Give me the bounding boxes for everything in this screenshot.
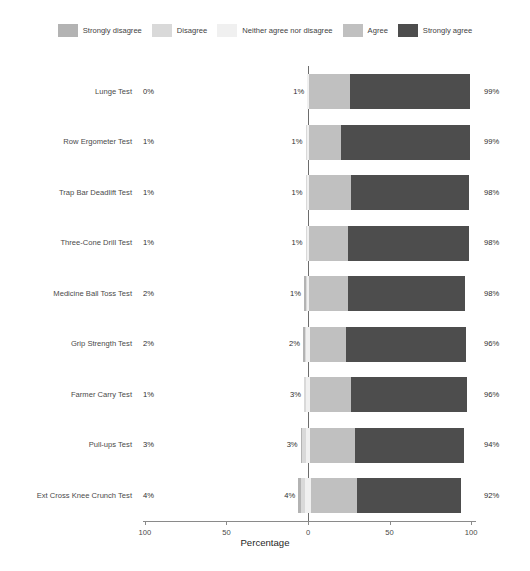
x-axis-tick <box>145 521 146 525</box>
legend-label: Strongly disagree <box>83 26 142 35</box>
positive-percent-label: 96% <box>484 339 499 348</box>
bar-segment-strongly-agree <box>350 74 471 109</box>
chart-row <box>143 66 476 117</box>
legend-swatch-icon <box>343 24 363 37</box>
bar-segment-strongly-agree <box>351 377 467 412</box>
positive-percent-label: 99% <box>484 137 499 146</box>
bar-segment-strongly-agree <box>341 125 470 160</box>
legend-swatch-icon <box>152 24 172 37</box>
legend-label: Neither agree nor disagree <box>242 26 332 35</box>
category-label: Medicine Ball Toss Test <box>53 289 132 298</box>
neutral-percent-label: 3% <box>287 440 298 449</box>
bar-segment-agree <box>309 74 350 109</box>
chart-row <box>143 319 476 370</box>
bar-segment-agree <box>309 276 348 311</box>
legend-item: Neither agree nor disagree <box>217 24 332 37</box>
x-axis-tick <box>471 521 472 525</box>
positive-percent-label: 98% <box>484 188 499 197</box>
stacked-bar <box>143 175 476 210</box>
x-axis-tick <box>308 521 309 525</box>
bar-segment-agree <box>311 478 357 513</box>
negative-percent-label: 0% <box>143 87 154 96</box>
plot-area <box>143 66 476 521</box>
bar-segment-strongly-agree <box>355 428 464 463</box>
positive-percent-label: 98% <box>484 238 499 247</box>
neutral-percent-label: 1% <box>292 188 303 197</box>
category-label: Row Ergometer Test <box>63 137 132 146</box>
chart-row <box>143 369 476 420</box>
negative-percent-label: 1% <box>143 188 154 197</box>
positive-percent-label: 99% <box>484 87 499 96</box>
category-label: Three-Cone Drill Test <box>60 238 132 247</box>
legend-item: Strongly disagree <box>58 24 142 37</box>
stacked-bar <box>143 276 476 311</box>
positive-percent-label: 98% <box>484 289 499 298</box>
negative-percent-label: 1% <box>143 238 154 247</box>
neutral-percent-label: 2% <box>289 339 300 348</box>
bar-segment-strongly-agree <box>346 327 467 362</box>
bar-segment-strongly-agree <box>351 175 469 210</box>
neutral-percent-label: 1% <box>292 137 303 146</box>
negative-percent-label: 4% <box>143 491 154 500</box>
stacked-bar <box>143 478 476 513</box>
category-label: Lunge Test <box>95 87 132 96</box>
legend-item: Disagree <box>152 24 207 37</box>
bar-segment-agree <box>310 428 354 463</box>
legend-swatch-icon <box>217 24 237 37</box>
negative-percent-label: 2% <box>143 289 154 298</box>
stacked-bar <box>143 74 476 109</box>
chart-row <box>143 167 476 218</box>
x-axis-tick-label: 50 <box>385 528 393 537</box>
neutral-percent-label: 1% <box>292 238 303 247</box>
stacked-bar <box>143 428 476 463</box>
chart-row <box>143 218 476 269</box>
neutral-percent-label: 1% <box>290 289 301 298</box>
positive-percent-label: 94% <box>484 440 499 449</box>
category-label: Trap Bar Deadlift Test <box>59 188 132 197</box>
x-axis-tick-label: 100 <box>465 528 478 537</box>
x-axis-title: Percentage <box>0 537 530 548</box>
negative-percent-label: 1% <box>143 137 154 146</box>
stacked-bar <box>143 125 476 160</box>
bar-segment-agree <box>309 125 342 160</box>
x-axis-tick-label: 100 <box>138 528 151 537</box>
stacked-bar <box>143 226 476 261</box>
legend-label: Disagree <box>177 26 207 35</box>
bar-segment-agree <box>309 175 351 210</box>
bar-segment-strongly-agree <box>348 226 469 261</box>
chart-row <box>143 470 476 521</box>
category-label: Grip Strength Test <box>71 339 132 348</box>
negative-percent-label: 3% <box>143 440 154 449</box>
chart-root: Strongly disagreeDisagreeNeither agree n… <box>0 0 530 571</box>
positive-percent-label: 92% <box>484 491 499 500</box>
x-axis-tick-label: 50 <box>222 528 230 537</box>
chart-row <box>143 268 476 319</box>
category-label: Farmer Carry Test <box>71 390 132 399</box>
chart-legend: Strongly disagreeDisagreeNeither agree n… <box>0 24 530 37</box>
bar-segment-agree <box>309 226 348 261</box>
stacked-bar <box>143 377 476 412</box>
chart-row <box>143 420 476 471</box>
legend-item: Strongly agree <box>398 24 472 37</box>
neutral-percent-label: 1% <box>293 87 304 96</box>
legend-item: Agree <box>343 24 388 37</box>
category-label: Ext Cross Knee Crunch Test <box>37 491 132 500</box>
legend-label: Agree <box>368 26 388 35</box>
bar-segment-agree <box>310 377 351 412</box>
category-label: Pull-ups Test <box>89 440 132 449</box>
neutral-percent-label: 4% <box>284 491 295 500</box>
chart-row <box>143 117 476 168</box>
x-axis-tick-label: 0 <box>306 528 310 537</box>
bar-segment-agree <box>310 327 346 362</box>
neutral-percent-label: 3% <box>290 390 301 399</box>
legend-swatch-icon <box>58 24 78 37</box>
bar-segment-strongly-agree <box>357 478 461 513</box>
bar-segment-strongly-agree <box>348 276 466 311</box>
legend-swatch-icon <box>398 24 418 37</box>
x-axis: 10050050100 <box>143 521 476 522</box>
legend-label: Strongly agree <box>423 26 472 35</box>
stacked-bar <box>143 327 476 362</box>
positive-percent-label: 96% <box>484 390 499 399</box>
x-axis-tick <box>390 521 391 525</box>
negative-percent-label: 1% <box>143 390 154 399</box>
